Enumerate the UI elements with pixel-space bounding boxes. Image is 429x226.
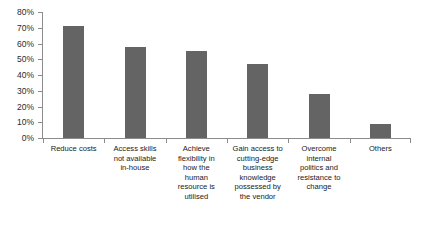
- x-axis-tick-mark: [410, 139, 411, 143]
- y-axis-tick-label: 50%: [17, 55, 34, 64]
- x-axis-tick-mark: [350, 139, 351, 143]
- bar: [125, 47, 146, 138]
- x-axis-category-label: Achieve flexibility in how the human res…: [166, 144, 227, 202]
- y-axis: 0%10%20%30%40%50%60%70%80%: [0, 0, 38, 145]
- x-axis-category-label: Reduce costs: [43, 144, 104, 154]
- y-axis-tick-label: 70%: [17, 24, 34, 33]
- x-axis-tick-mark: [227, 139, 228, 143]
- bar: [247, 64, 268, 138]
- x-axis-tick-mark: [43, 139, 44, 143]
- x-axis-tick-mark: [288, 139, 289, 143]
- x-axis-ticks: [43, 139, 411, 143]
- x-axis-tick-mark: [104, 139, 105, 143]
- y-axis-tick-label: 10%: [17, 118, 34, 127]
- x-axis-category-label: Overcome internal politics and resistanc…: [288, 144, 349, 192]
- x-axis-tick-mark: [166, 139, 167, 143]
- bar: [370, 124, 391, 138]
- x-axis-category-label: Others: [350, 144, 411, 154]
- x-axis-labels: Reduce costsAccess skills not available …: [43, 144, 411, 224]
- y-axis-tick-label: 0%: [22, 134, 34, 143]
- bar: [309, 94, 330, 138]
- y-axis-tick-label: 60%: [17, 39, 34, 48]
- y-axis-tick-label: 30%: [17, 87, 34, 96]
- plot-area: [43, 12, 411, 138]
- bar: [186, 51, 207, 138]
- y-axis-tick-label: 20%: [17, 102, 34, 111]
- bar-chart: 0%10%20%30%40%50%60%70%80% Reduce costsA…: [0, 0, 429, 226]
- x-axis-category-label: Gain access to cutting-edge business kno…: [227, 144, 288, 202]
- x-axis-category-label: Access skills not available in-house: [104, 144, 165, 173]
- bar: [63, 26, 84, 138]
- y-axis-tick-label: 80%: [17, 8, 34, 17]
- y-axis-tick-label: 40%: [17, 71, 34, 80]
